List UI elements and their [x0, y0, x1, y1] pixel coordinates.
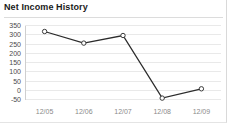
net-income-history-widget: Net Income History 350300250200150100500… — [0, 0, 227, 123]
data-point-markers — [42, 29, 203, 100]
x-axis-tick-label: 12/06 — [75, 108, 93, 115]
x-axis-tick-label: 12/08 — [153, 108, 171, 115]
line-chart-svg: 350300250200150100500-50 12/0512/0612/07… — [0, 19, 227, 123]
y-axis-tick-label: 0 — [17, 87, 21, 94]
net-income-line — [45, 32, 202, 99]
data-point-marker — [160, 96, 164, 100]
chart-plot-area: 350300250200150100500-50 12/0512/0612/07… — [0, 19, 227, 123]
y-axis-tick-label: -50 — [11, 96, 21, 103]
y-axis-tick-labels: 350300250200150100500-50 — [9, 22, 21, 103]
y-axis-tick-label: 250 — [9, 41, 21, 48]
y-axis-tick-label: 150 — [9, 59, 21, 66]
x-axis-tick-label: 12/05 — [36, 108, 54, 115]
data-point-marker — [42, 29, 46, 33]
y-axis-tick-label: 350 — [9, 22, 21, 29]
x-axis-tick-label: 12/09 — [193, 108, 211, 115]
x-axis-tick-labels: 12/0512/0612/0712/0812/09 — [36, 108, 210, 115]
y-axis-tick-label: 200 — [9, 50, 21, 57]
data-point-marker — [82, 41, 86, 45]
x-axis-tick-label: 12/07 — [114, 108, 132, 115]
y-axis-tick-label: 300 — [9, 31, 21, 38]
data-point-marker — [121, 33, 125, 37]
y-axis-tick-label: 100 — [9, 68, 21, 75]
y-axis-tick-label: 50 — [13, 78, 21, 85]
data-point-marker — [199, 87, 203, 91]
title-divider — [4, 17, 223, 18]
chart-title: Net Income History — [4, 2, 88, 12]
